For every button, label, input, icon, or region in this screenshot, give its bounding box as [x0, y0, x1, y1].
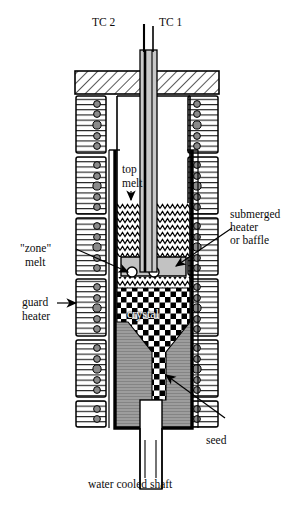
guard-heater-left-column — [76, 96, 106, 427]
heater-block — [188, 96, 218, 153]
label-guard-heater-line1: guard — [22, 296, 48, 310]
heater-block — [76, 96, 106, 153]
label-guard-heater-line2: heater — [22, 310, 50, 324]
central-pull-shaft — [140, 50, 157, 272]
figure-canvas: TC 2 TC 1 top melt submerged heater or b… — [0, 0, 306, 509]
heater-block — [76, 401, 106, 427]
label-submerged-heater-line1: submerged — [230, 208, 280, 222]
heater-block — [76, 218, 106, 275]
heater-block — [76, 279, 106, 336]
label-seed: seed — [206, 434, 226, 448]
heater-block — [76, 157, 106, 214]
label-tc2: TC 2 — [92, 16, 115, 30]
label-tc1: TC 1 — [159, 16, 182, 30]
water-cooled-shaft — [140, 400, 162, 489]
label-submerged-heater-line3: or baffle — [230, 234, 269, 248]
label-top-melt-line2: melt — [122, 177, 142, 191]
heater-block — [76, 340, 106, 397]
label-top-melt-line1: top — [122, 163, 137, 177]
label-zone-melt-line1: "zone" — [20, 242, 51, 256]
label-water-cooled-shaft: water cooled shaft — [88, 478, 172, 492]
label-submerged-heater-line2: heater — [230, 221, 258, 235]
label-zone-melt-line2: melt — [25, 256, 45, 270]
label-crystal: crystal — [127, 308, 159, 322]
zone-melt-region — [117, 277, 190, 289]
